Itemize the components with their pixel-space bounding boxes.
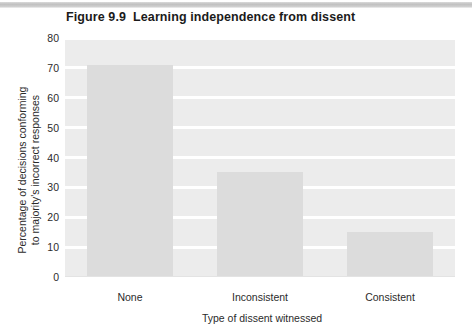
x-axis-baseline xyxy=(65,276,455,277)
bar-none xyxy=(87,65,173,277)
x-axis-title: Type of dissent witnessed xyxy=(0,312,472,324)
figure-title: Figure 9.9Learning independence from dis… xyxy=(66,10,355,24)
gridline xyxy=(65,38,455,40)
x-tick-label-inconsistent: Inconsistent xyxy=(232,291,288,303)
figure-number: Figure 9.9 xyxy=(66,10,126,24)
chart-plot-area xyxy=(65,38,455,277)
scan-artifact-strip-secondary xyxy=(0,7,472,8)
x-tick-label-none: None xyxy=(117,291,142,303)
y-axis-title-line-1: Percentage of decisions conforming xyxy=(16,45,29,295)
figure-title-text: Learning independence from dissent xyxy=(133,10,355,24)
x-tick-label-consistent: Consistent xyxy=(365,291,415,303)
bar-consistent xyxy=(347,232,433,277)
y-axis-title: Percentage of decisions conforming to ma… xyxy=(16,45,42,295)
y-axis-title-line-2: to majority's incorrect responses xyxy=(29,45,42,295)
bar-inconsistent xyxy=(217,172,303,277)
y-tick-label-80: 80 xyxy=(3,32,59,44)
